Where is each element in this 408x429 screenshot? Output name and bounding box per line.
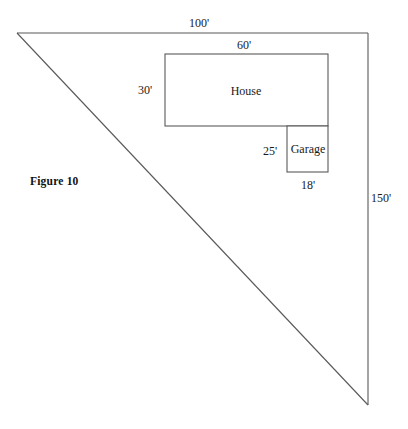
garage-height-label: 25': [263, 145, 277, 157]
diagram-svg: [0, 0, 408, 429]
lot-top-side-length-label: 100': [189, 17, 209, 29]
figure-caption: Figure 10: [30, 176, 79, 188]
garage-width-label: 18': [301, 179, 315, 191]
garage-label: Garage: [291, 143, 326, 155]
lot-right-side-length-label: 150': [371, 192, 391, 204]
figure-canvas: 100' 150' 60' 30' House 25' 18' Garage F…: [0, 0, 408, 429]
house-height-label: 30': [138, 84, 152, 96]
house-label: House: [231, 85, 262, 97]
house-width-label: 60': [237, 39, 251, 51]
